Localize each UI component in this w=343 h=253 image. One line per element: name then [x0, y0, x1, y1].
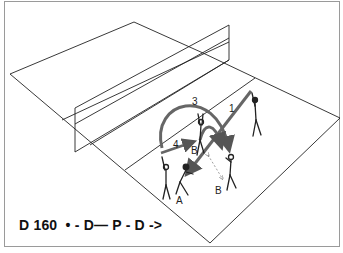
attack-line — [125, 78, 255, 170]
arrow-3 — [161, 106, 228, 148]
player-top-right — [252, 93, 261, 136]
player-label-b-right: B — [215, 185, 222, 196]
arrow-set — [200, 127, 220, 142]
arrow-label-3: 3 — [192, 96, 198, 107]
net — [75, 25, 229, 152]
play-arrows — [161, 91, 251, 178]
near-court-side-and-back — [203, 53, 340, 243]
court-lines — [10, 22, 340, 243]
player-left — [162, 157, 170, 199]
figure-caption: D 160 • - D— P - D -> — [19, 217, 162, 233]
player-label-a: A — [176, 195, 183, 206]
movement-arrow — [208, 155, 222, 178]
volleyball-court-diagram: 3 1 4 — [0, 0, 343, 253]
net-bottom — [75, 60, 229, 152]
player-b-right — [226, 155, 236, 191]
far-court-back-and-side — [10, 22, 203, 74]
arrow-label-1: 1 — [229, 103, 235, 114]
player-label-b-setter: B — [191, 145, 198, 156]
arrow-label-4: 4 — [173, 139, 179, 150]
